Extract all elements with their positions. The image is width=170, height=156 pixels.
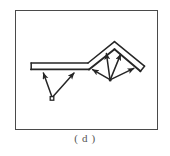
right-arrow-2 (106, 53, 110, 79)
figure-container: ( d ) (0, 0, 170, 156)
right-arrow-1 (93, 70, 110, 80)
figure-caption: ( d ) (0, 132, 170, 144)
structure-members (31, 42, 145, 72)
left-support-node (50, 97, 54, 101)
force-arrows-right (93, 53, 134, 79)
left-arrow-2 (53, 73, 74, 97)
left-arrow-1 (43, 73, 52, 97)
right-support-node (109, 79, 112, 82)
figure-frame-border (15, 10, 158, 130)
roof-right-end-cap (140, 66, 144, 71)
schematic-diagram (16, 11, 159, 131)
roof-left-slope-member (88, 42, 115, 70)
flat-beam-member (31, 63, 89, 69)
force-arrows-left (43, 73, 74, 97)
